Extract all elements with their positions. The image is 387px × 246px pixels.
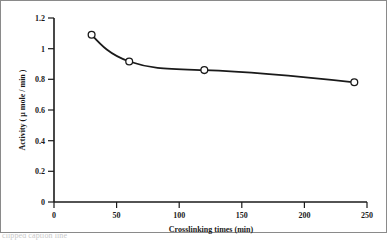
x-axis-tick-labels: 0 50 100 150 200 250 [52, 211, 373, 220]
data-series-activity [88, 31, 358, 85]
data-point-marker [351, 79, 358, 86]
x-tick-label: 50 [113, 211, 121, 220]
x-tick-label: 100 [173, 211, 185, 220]
y-axis-title: Activity ( μ mole / min ) [18, 69, 27, 150]
clipped-caption-strip: clipped caption line [0, 234, 387, 246]
caption-text: clipped caption line [2, 234, 67, 240]
x-axis-ticks [54, 202, 367, 208]
y-axis-tick-labels: 0 0.2 0.4 0.6 0.8 1 1.2 [35, 14, 45, 207]
x-axis-title: Crosslinking times (min) [169, 225, 254, 234]
x-tick-label: 150 [236, 211, 248, 220]
x-tick-label: 200 [298, 211, 310, 220]
x-tick-label: 250 [361, 211, 373, 220]
y-tick-label: 0.8 [35, 75, 45, 84]
y-tick-label: 0.6 [35, 106, 45, 115]
data-point-marker [201, 67, 208, 74]
data-point-marker [126, 58, 133, 65]
y-tick-label: 1.2 [35, 14, 45, 23]
data-point-marker [88, 31, 95, 38]
y-tick-label: 0.2 [35, 167, 45, 176]
y-axis-ticks [48, 18, 54, 202]
y-tick-label: 0 [41, 198, 45, 207]
y-tick-label: 0.4 [35, 137, 45, 146]
activity-vs-crosslinking-time-chart: 0 0.2 0.4 0.6 0.8 1 1.2 0 50 100 150 200… [1, 1, 387, 234]
figure-panel: 0 0.2 0.4 0.6 0.8 1 1.2 0 50 100 150 200… [0, 0, 387, 233]
x-tick-label: 0 [52, 211, 56, 220]
y-tick-label: 1 [41, 45, 45, 54]
